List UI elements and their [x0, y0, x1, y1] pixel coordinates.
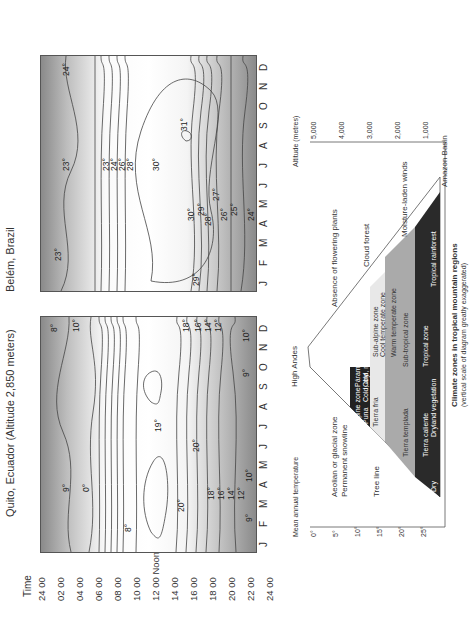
belem-title: Belém, Brazil: [4, 227, 16, 292]
belem-month-axis: J F M A M J J A S O N D: [258, 57, 272, 292]
quito-contour-plot: 9° 8° 0° 20° 20° 18° 16° 14° 12° 10° 9° …: [40, 316, 257, 553]
climate-zones-diagram: High Andes Absence of flowering plants A…: [290, 117, 470, 537]
belem-contours: [41, 56, 256, 291]
time-axis-label: Time: [22, 575, 33, 597]
quito-title: Quito, Ecuador (Altitude 2,850 meters): [4, 329, 16, 517]
quito-month-axis: J F M A M J J A S O N D: [258, 318, 272, 553]
quito-contours: [41, 317, 256, 552]
figure-canvas: Quito, Ecuador (Altitude 2,850 meters) T…: [0, 0, 475, 637]
belem-contour-plot: 23° 29° 23° 24° 26° 28° 30° 30° 29° 28° …: [40, 55, 257, 292]
